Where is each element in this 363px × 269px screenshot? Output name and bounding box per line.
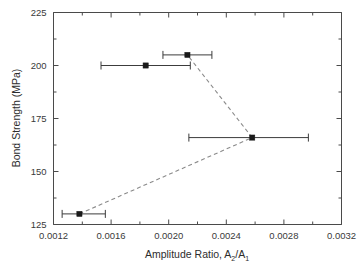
y-tick-label: 125 bbox=[31, 219, 47, 230]
data-point-marker bbox=[185, 52, 190, 57]
y-tick-label: 175 bbox=[31, 113, 47, 124]
x-tick-label: 0.0024 bbox=[212, 230, 241, 241]
data-point-marker bbox=[250, 135, 255, 140]
x-tick-label: 0.0028 bbox=[269, 230, 298, 241]
scatter-plot-canvas: 0.00120.00160.00200.00240.00280.0032 125… bbox=[0, 0, 363, 269]
y-tick-label: 225 bbox=[31, 7, 47, 18]
y-tick-label: 200 bbox=[31, 60, 47, 71]
data-point-marker bbox=[143, 63, 148, 68]
x-tick-label: 0.0016 bbox=[97, 230, 126, 241]
x-tick-label: 0.0020 bbox=[154, 230, 183, 241]
data-point-marker bbox=[77, 211, 82, 216]
chart-figure: 0.00120.00160.00200.00240.00280.0032 125… bbox=[0, 0, 363, 269]
x-tick-label: 0.0012 bbox=[39, 230, 68, 241]
y-tick-label: 150 bbox=[31, 166, 47, 177]
x-tick-label: 0.0032 bbox=[327, 230, 356, 241]
y-axis-title: Bond Strength (MPa) bbox=[10, 69, 22, 168]
